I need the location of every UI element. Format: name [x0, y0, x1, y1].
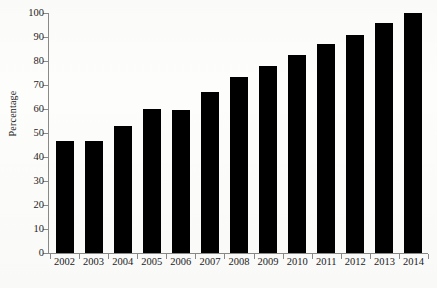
y-tick-label: 10 [34, 221, 45, 236]
bar [259, 66, 277, 253]
y-tick-label: 60 [34, 101, 45, 116]
bar-series [48, 13, 426, 253]
y-tick-label: 30 [34, 173, 45, 188]
bar [230, 77, 248, 253]
bar [85, 141, 103, 253]
bar [114, 126, 132, 253]
y-tick-label: 40 [34, 149, 45, 164]
bar [288, 55, 306, 253]
bar [143, 109, 161, 253]
y-tick-label: 50 [34, 125, 45, 140]
y-axis-label: Percentage [7, 69, 18, 159]
y-tick-label: 90 [34, 29, 45, 44]
bar [375, 23, 393, 253]
y-tick-label: 80 [34, 53, 45, 68]
x-tick-label: 2014 [388, 256, 437, 267]
bar-chart: Percentage 0102030405060708090100 200220… [0, 0, 437, 288]
plot-area: 0102030405060708090100 [48, 13, 426, 253]
bar [172, 110, 190, 253]
bar [346, 35, 364, 253]
y-tick-label: 70 [34, 77, 45, 92]
x-axis-line [48, 253, 428, 254]
bar [404, 13, 422, 253]
y-tick-label: 100 [28, 5, 44, 20]
bar [56, 141, 74, 253]
bar [201, 92, 219, 253]
bar [317, 44, 335, 253]
y-tick-label: 20 [34, 197, 45, 212]
